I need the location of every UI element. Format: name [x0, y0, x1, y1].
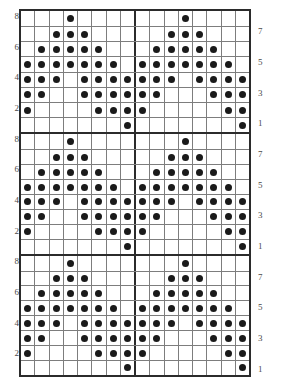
- stitch-cell-empty[interactable]: [50, 361, 64, 375]
- stitch-cell-empty[interactable]: [207, 27, 221, 41]
- stitch-cell-empty[interactable]: [21, 240, 35, 254]
- stitch-cell-empty[interactable]: [193, 361, 207, 375]
- stitch-cell-empty[interactable]: [179, 118, 193, 132]
- stitch-cell-filled[interactable]: [92, 286, 106, 300]
- stitch-cell-filled[interactable]: [236, 225, 249, 239]
- stitch-cell-filled[interactable]: [193, 272, 207, 286]
- stitch-cell-empty[interactable]: [50, 134, 64, 149]
- stitch-cell-filled[interactable]: [50, 57, 64, 71]
- stitch-cell-filled[interactable]: [50, 165, 64, 179]
- stitch-cell-filled[interactable]: [78, 73, 92, 87]
- stitch-cell-filled[interactable]: [92, 57, 106, 71]
- stitch-cell-filled[interactable]: [193, 42, 207, 56]
- stitch-cell-filled[interactable]: [179, 165, 193, 179]
- stitch-cell-filled[interactable]: [78, 316, 92, 330]
- stitch-cell-filled[interactable]: [78, 210, 92, 224]
- stitch-cell-filled[interactable]: [78, 180, 92, 194]
- stitch-cell-empty[interactable]: [35, 346, 49, 360]
- stitch-cell-filled[interactable]: [121, 316, 136, 330]
- stitch-cell-filled[interactable]: [107, 103, 121, 117]
- stitch-cell-filled[interactable]: [193, 73, 207, 87]
- stitch-cell-filled[interactable]: [207, 180, 221, 194]
- stitch-cell-filled[interactable]: [92, 316, 106, 330]
- stitch-cell-filled[interactable]: [150, 165, 164, 179]
- stitch-cell-filled[interactable]: [165, 301, 179, 315]
- stitch-cell-empty[interactable]: [64, 240, 78, 254]
- stitch-cell-empty[interactable]: [207, 225, 221, 239]
- stitch-cell-empty[interactable]: [236, 11, 249, 26]
- stitch-cell-filled[interactable]: [64, 256, 78, 271]
- stitch-cell-empty[interactable]: [64, 118, 78, 132]
- stitch-cell-filled[interactable]: [78, 88, 92, 102]
- stitch-cell-empty[interactable]: [35, 150, 49, 164]
- stitch-cell-filled[interactable]: [50, 272, 64, 286]
- stitch-cell-empty[interactable]: [64, 195, 78, 209]
- stitch-cell-filled[interactable]: [50, 42, 64, 56]
- stitch-cell-filled[interactable]: [136, 346, 150, 360]
- stitch-cell-empty[interactable]: [21, 361, 35, 375]
- stitch-cell-filled[interactable]: [64, 134, 78, 149]
- stitch-cell-filled[interactable]: [207, 331, 221, 345]
- stitch-cell-filled[interactable]: [193, 301, 207, 315]
- stitch-cell-filled[interactable]: [92, 180, 106, 194]
- stitch-cell-filled[interactable]: [107, 301, 121, 315]
- stitch-cell-empty[interactable]: [21, 27, 35, 41]
- stitch-cell-filled[interactable]: [121, 346, 136, 360]
- stitch-cell-filled[interactable]: [78, 165, 92, 179]
- stitch-cell-empty[interactable]: [21, 42, 35, 56]
- stitch-cell-filled[interactable]: [64, 165, 78, 179]
- stitch-cell-filled[interactable]: [107, 73, 121, 87]
- stitch-cell-empty[interactable]: [193, 240, 207, 254]
- stitch-cell-empty[interactable]: [179, 361, 193, 375]
- stitch-cell-empty[interactable]: [165, 361, 179, 375]
- stitch-cell-filled[interactable]: [207, 165, 221, 179]
- stitch-cell-filled[interactable]: [35, 210, 49, 224]
- stitch-cell-filled[interactable]: [92, 346, 106, 360]
- stitch-cell-empty[interactable]: [165, 88, 179, 102]
- stitch-cell-filled[interactable]: [150, 42, 164, 56]
- stitch-cell-empty[interactable]: [207, 150, 221, 164]
- stitch-cell-empty[interactable]: [150, 103, 164, 117]
- stitch-cell-empty[interactable]: [50, 103, 64, 117]
- stitch-cell-filled[interactable]: [136, 316, 150, 330]
- stitch-cell-filled[interactable]: [21, 73, 35, 87]
- stitch-cell-empty[interactable]: [64, 316, 78, 330]
- stitch-cell-filled[interactable]: [193, 150, 207, 164]
- stitch-cell-filled[interactable]: [136, 195, 150, 209]
- stitch-cell-filled[interactable]: [107, 225, 121, 239]
- stitch-cell-empty[interactable]: [193, 225, 207, 239]
- stitch-cell-filled[interactable]: [236, 88, 249, 102]
- stitch-cell-filled[interactable]: [222, 331, 236, 345]
- stitch-cell-filled[interactable]: [92, 42, 106, 56]
- stitch-cell-filled[interactable]: [78, 27, 92, 41]
- stitch-cell-empty[interactable]: [136, 42, 150, 56]
- stitch-cell-empty[interactable]: [136, 134, 150, 149]
- stitch-cell-filled[interactable]: [236, 73, 249, 87]
- stitch-cell-filled[interactable]: [107, 88, 121, 102]
- stitch-cell-empty[interactable]: [207, 11, 221, 26]
- stitch-cell-filled[interactable]: [150, 210, 164, 224]
- stitch-cell-empty[interactable]: [35, 103, 49, 117]
- stitch-cell-filled[interactable]: [179, 272, 193, 286]
- stitch-cell-filled[interactable]: [50, 286, 64, 300]
- stitch-cell-empty[interactable]: [35, 240, 49, 254]
- stitch-cell-empty[interactable]: [236, 180, 249, 194]
- stitch-cell-empty[interactable]: [78, 103, 92, 117]
- stitch-cell-empty[interactable]: [165, 256, 179, 271]
- stitch-cell-empty[interactable]: [92, 134, 106, 149]
- stitch-cell-filled[interactable]: [35, 301, 49, 315]
- stitch-cell-filled[interactable]: [78, 150, 92, 164]
- stitch-cell-empty[interactable]: [236, 134, 249, 149]
- stitch-cell-filled[interactable]: [21, 331, 35, 345]
- stitch-cell-empty[interactable]: [165, 331, 179, 345]
- stitch-cell-filled[interactable]: [21, 88, 35, 102]
- stitch-cell-filled[interactable]: [136, 57, 150, 71]
- stitch-cell-filled[interactable]: [21, 195, 35, 209]
- stitch-cell-empty[interactable]: [236, 150, 249, 164]
- stitch-cell-filled[interactable]: [21, 301, 35, 315]
- stitch-cell-filled[interactable]: [78, 301, 92, 315]
- stitch-cell-empty[interactable]: [121, 42, 136, 56]
- stitch-cell-filled[interactable]: [193, 195, 207, 209]
- stitch-cell-filled[interactable]: [193, 286, 207, 300]
- stitch-cell-empty[interactable]: [21, 256, 35, 271]
